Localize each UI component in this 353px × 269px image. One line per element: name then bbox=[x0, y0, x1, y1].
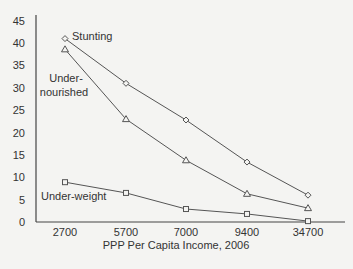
x-tick-label: 5700 bbox=[114, 226, 138, 238]
data-point bbox=[62, 46, 69, 52]
data-point bbox=[244, 190, 251, 196]
y-tick-label: 10 bbox=[13, 171, 25, 183]
y-tick-label: 45 bbox=[13, 15, 25, 27]
y-tick-label: 30 bbox=[13, 82, 25, 94]
data-point bbox=[244, 159, 250, 165]
line-chart: 051015202530354045 270057007000940034700… bbox=[0, 0, 353, 269]
series-under-nourished bbox=[62, 46, 312, 211]
y-tick-label: 20 bbox=[13, 127, 25, 139]
data-point bbox=[63, 180, 68, 185]
label-undernourished-2: nourished bbox=[40, 86, 88, 98]
data-point bbox=[124, 190, 129, 195]
data-point bbox=[245, 211, 250, 216]
data-point bbox=[183, 117, 189, 123]
y-tick-label: 0 bbox=[19, 216, 25, 228]
x-tick-label: 7000 bbox=[174, 226, 198, 238]
data-point bbox=[183, 157, 190, 163]
data-point bbox=[305, 192, 311, 198]
y-tick-label: 15 bbox=[13, 149, 25, 161]
y-tick-label: 25 bbox=[13, 104, 25, 116]
label-undernourished-1: Under- bbox=[49, 72, 83, 84]
series-stunting bbox=[62, 36, 311, 199]
y-tick-label: 40 bbox=[13, 37, 25, 49]
data-point bbox=[184, 207, 189, 212]
label-stunting: Stunting bbox=[72, 30, 112, 42]
label-underweight: Under-weight bbox=[41, 190, 106, 202]
x-axis: 270057007000940034700 bbox=[36, 222, 345, 238]
series-labels: Stunting Under- nourished Under-weight bbox=[40, 30, 113, 202]
chart-canvas: 051015202530354045 270057007000940034700… bbox=[0, 0, 353, 269]
y-axis: 051015202530354045 bbox=[13, 15, 36, 228]
x-axis-title: PPP Per Capita Income, 2006 bbox=[103, 239, 250, 251]
x-tick-label: 9400 bbox=[235, 226, 259, 238]
y-tick-label: 5 bbox=[19, 194, 25, 206]
y-tick-label: 35 bbox=[13, 59, 25, 71]
data-point bbox=[306, 219, 311, 224]
x-tick-label: 2700 bbox=[53, 226, 77, 238]
x-tick-label: 34700 bbox=[293, 226, 324, 238]
